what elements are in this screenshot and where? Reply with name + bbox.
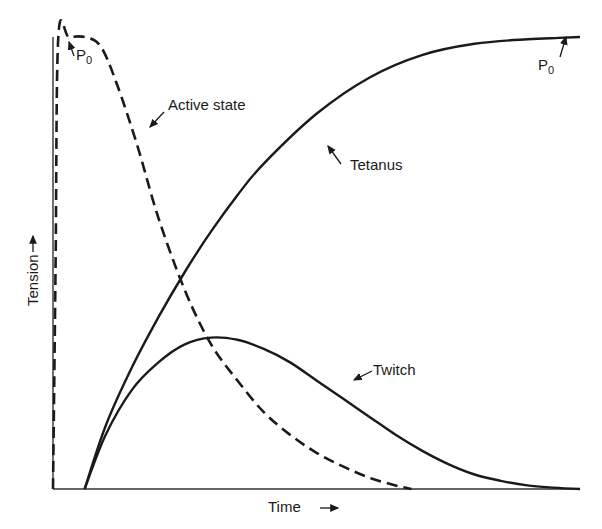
p0-left-arrow <box>69 42 74 56</box>
y-axis-label: Tension <box>24 254 41 306</box>
twitch-arrow <box>354 371 372 380</box>
active-state-curve <box>53 20 411 489</box>
tetanus-curve <box>85 37 580 489</box>
p0-right-label: P0 <box>538 56 554 73</box>
p0-right-arrow <box>560 37 566 57</box>
tetanus-label: Tetanus <box>350 156 403 173</box>
tension-time-chart <box>0 0 602 529</box>
twitch-label: Twitch <box>373 361 416 378</box>
tetanus-arrow <box>328 146 341 164</box>
twitch-curve <box>85 337 580 489</box>
active-state-arrow <box>150 112 164 127</box>
p-subscript: 0 <box>548 64 554 76</box>
p-subscript: 0 <box>86 54 92 66</box>
p0-left-label: P0 <box>76 46 92 63</box>
active-state-label: Active state <box>168 96 246 113</box>
p-letter: P <box>538 56 548 73</box>
x-axis-label: Time <box>268 498 301 515</box>
p-letter: P <box>76 46 86 63</box>
